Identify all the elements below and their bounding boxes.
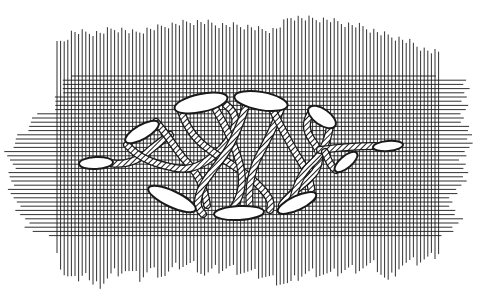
background [0,0,493,298]
stitch-diagram [0,0,493,298]
warp-threads [57,16,439,289]
stitch-illustration [0,0,493,298]
